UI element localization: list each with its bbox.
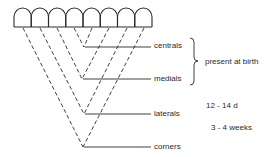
label-present-at-birth: present at birth	[205, 58, 258, 66]
tooth-7-icon	[118, 8, 135, 27]
tooth-1-icon	[14, 8, 31, 27]
eruption-diagram: centrals medials laterals corners presen…	[0, 0, 269, 157]
present-at-birth-brace	[190, 38, 198, 85]
label-corners: corners	[154, 143, 181, 151]
diagram-graphics	[0, 0, 269, 157]
tooth-6-icon	[100, 8, 117, 27]
tooth-8-icon	[135, 8, 152, 27]
tooth-2-icon	[31, 8, 48, 27]
label-laterals: laterals	[154, 110, 180, 118]
leader-lines	[83, 47, 151, 147]
tooth-4-icon	[66, 8, 83, 27]
label-laterals-time: 12 - 14 d	[206, 102, 238, 110]
label-centrals: centrals	[154, 42, 182, 50]
label-corners-time: 3 - 4 weeks	[211, 124, 252, 132]
eruption-lines	[23, 28, 144, 147]
teeth-row	[14, 8, 152, 27]
tooth-3-icon	[49, 8, 66, 27]
centrals-right-line	[84, 28, 92, 47]
tooth-5-icon	[83, 8, 100, 27]
corners-right-line	[83, 28, 144, 147]
corners-left-line	[23, 28, 83, 147]
laterals-left-line	[40, 28, 84, 114]
laterals-right-line	[84, 28, 127, 114]
centrals-left-line	[74, 28, 84, 47]
label-medials: medials	[154, 75, 182, 83]
